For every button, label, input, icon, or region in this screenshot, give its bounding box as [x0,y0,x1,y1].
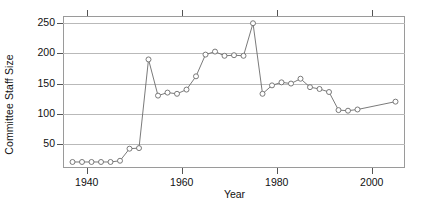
data-point [270,83,275,88]
plot-area: 50100150200250 1940196019802000 [63,16,405,168]
x-tick-label: 1940 [62,176,112,188]
data-point [317,86,322,91]
data-point [222,53,227,58]
data-point [203,52,208,57]
data-point [89,159,94,164]
x-tick [277,168,278,174]
data-point [355,107,360,112]
data-point [327,90,332,95]
data-point [213,49,218,54]
data-point [298,76,303,81]
data-line [73,23,396,162]
x-tick [87,168,88,174]
data-point [346,108,351,113]
data-point [241,53,246,58]
data-point [80,159,85,164]
x-tick [372,168,373,174]
data-point [289,81,294,86]
series-layer [63,16,405,168]
y-tick-label: 150 [19,77,55,89]
x-tick-label: 1960 [157,176,207,188]
data-point [393,99,398,104]
data-point [232,53,237,58]
data-point [184,87,189,92]
x-tick-label: 2000 [347,176,397,188]
y-tick-label: 50 [19,137,55,149]
y-tick-label: 200 [19,46,55,58]
chart-figure: Committee Staff Size 50100150200250 1940… [0,0,422,209]
data-point [279,80,284,85]
data-point [308,85,313,90]
y-tick-label: 250 [19,16,55,28]
data-point [175,91,180,96]
data-point [146,57,151,62]
data-point [260,91,265,96]
data-point [194,74,199,79]
data-point [118,158,123,163]
data-point [165,90,170,95]
data-point [251,21,256,26]
x-tick [182,168,183,174]
data-point [99,159,104,164]
data-point [336,108,341,113]
data-point [108,159,113,164]
x-tick-label: 1980 [252,176,302,188]
y-axis-label: Committee Staff Size [0,0,18,209]
data-point [70,159,75,164]
data-point [137,146,142,151]
data-point [156,93,161,98]
data-point [127,146,132,151]
x-axis-label: Year [63,188,406,200]
y-tick-label: 100 [19,107,55,119]
